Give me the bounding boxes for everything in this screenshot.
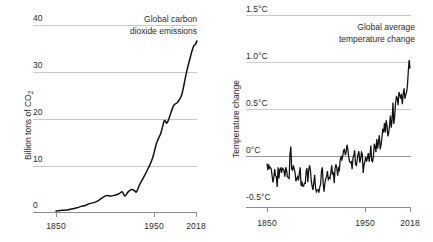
temperature-change-chart: Global average temperature change Temper… — [216, 0, 433, 242]
co2-series-plot — [0, 0, 216, 242]
temp-series-plot — [216, 0, 433, 242]
co2-emissions-chart: Global carbon dioxide emissions Billion … — [0, 0, 216, 242]
